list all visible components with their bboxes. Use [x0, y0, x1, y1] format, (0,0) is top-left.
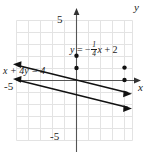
- eq1-plus: +: [104, 44, 110, 55]
- y-tick-label-5: 5: [57, 14, 63, 25]
- x-axis-label: x: [138, 82, 143, 93]
- x-tick-label-neg5: -5: [4, 81, 13, 92]
- graph-figure: y x 5 -5 -5 y = −14x + 2 x + 4y = 4: [0, 0, 150, 155]
- y-tick-label-neg5: -5: [50, 131, 59, 142]
- eq1-constant: 2: [113, 44, 118, 55]
- y-axis-label: y: [134, 2, 139, 13]
- eq1-minus: −: [85, 44, 91, 55]
- coordinate-plot: [0, 0, 150, 155]
- eq1-equals: =: [77, 44, 83, 55]
- equation-label-standard-form: x + 4y = 4: [3, 66, 45, 76]
- eq1-lhs: y: [70, 44, 74, 55]
- equation-label-slope-intercept: y = −14x + 2: [70, 41, 118, 57]
- eq1-variable: x: [97, 44, 101, 55]
